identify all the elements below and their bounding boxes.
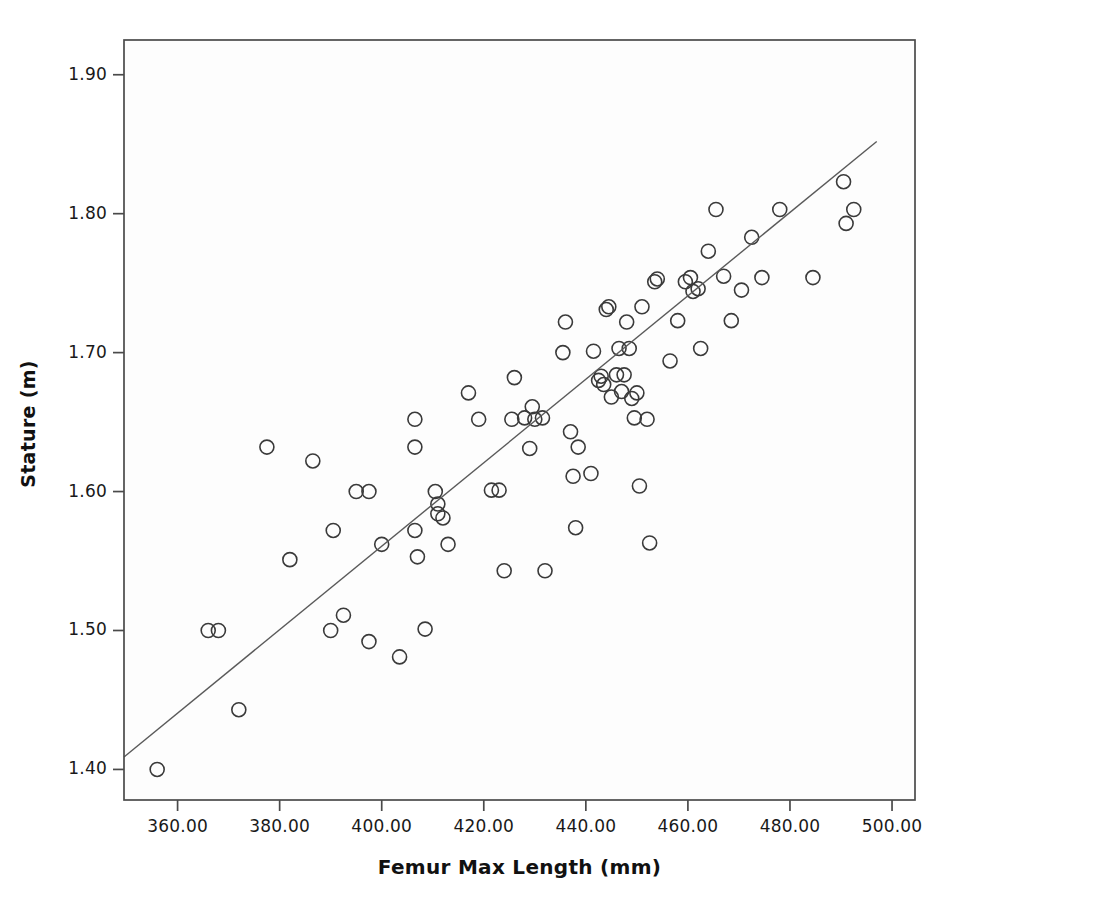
scatter-plot-figure: 250 R2 Linear = 0.769 360.00380.00400.00… <box>0 0 1106 902</box>
x-tick-label: 500.00 <box>847 816 937 836</box>
y-tick-label: 1.80 <box>37 203 107 223</box>
x-tick-label: 440.00 <box>541 816 631 836</box>
y-tick-label: 1.50 <box>37 619 107 639</box>
x-tick-label: 420.00 <box>439 816 529 836</box>
y-tick-label: 1.40 <box>37 758 107 778</box>
y-tick-label: 1.90 <box>37 64 107 84</box>
x-axis-title: Femur Max Length (mm) <box>124 855 915 879</box>
plot-canvas <box>0 0 1106 902</box>
x-tick-label: 460.00 <box>643 816 733 836</box>
y-tick-label: 1.60 <box>37 481 107 501</box>
x-tick-label: 380.00 <box>235 816 325 836</box>
y-tick-label: 1.70 <box>37 342 107 362</box>
x-tick-label: 480.00 <box>745 816 835 836</box>
x-tick-label: 360.00 <box>133 816 223 836</box>
y-axis-title: Stature (m) <box>17 324 39 524</box>
x-tick-label: 400.00 <box>337 816 427 836</box>
